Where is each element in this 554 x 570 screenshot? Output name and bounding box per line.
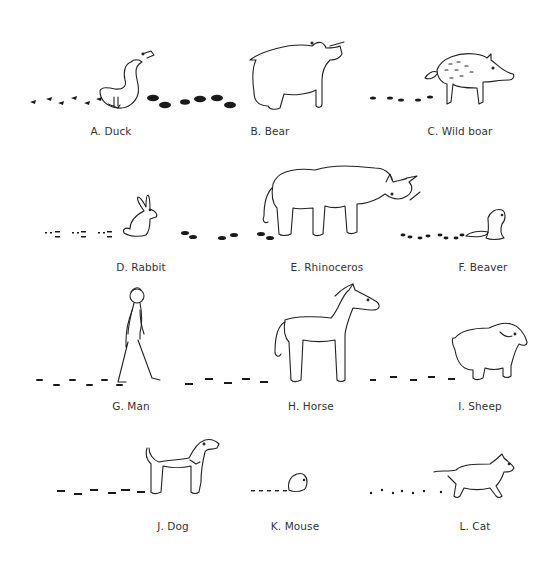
rhino-tracks [181,231,274,240]
duck-drawing [100,51,154,108]
man-drawing [118,288,160,382]
beaver-drawing [466,209,505,239]
label-bear: B. Bear [251,125,290,137]
rabbit-tracks [45,231,112,238]
label-rhinoceros: E. Rhinoceros [291,261,364,273]
rabbit-drawing [123,195,156,236]
label-wild-boar: C. Wild boar [427,125,492,137]
mouse-drawing [288,473,307,491]
duck-tracks [30,96,102,105]
label-duck: A. Duck [91,125,132,137]
rhinoceros-drawing [263,166,420,236]
horse-tracks [185,378,268,385]
dog-drawing [146,439,219,493]
animal-tracks-figure: A. Duck B. Bear C. Wild boar D. Rabbit E… [0,0,554,570]
label-sheep: I. Sheep [458,400,501,412]
label-mouse: K. Mouse [271,520,319,532]
dog-tracks [57,489,145,495]
label-horse: H. Horse [288,400,334,412]
sheep-drawing [452,323,527,379]
label-beaver: F. Beaver [458,261,507,273]
man-tracks [36,379,123,386]
boar-tracks [370,95,433,101]
bear-drawing [250,42,344,109]
label-dog: J. Dog [157,520,189,532]
cat-drawing [434,454,514,498]
beaver-tracks [401,234,465,240]
cat-tracks [370,489,442,494]
horse-drawing [275,284,379,382]
label-rabbit: D. Rabbit [116,261,166,273]
label-man: G. Man [112,400,150,412]
wild-boar-drawing [425,54,514,104]
sheep-tracks [370,376,455,381]
illustration-canvas [0,0,554,570]
label-cat: L. Cat [459,520,490,532]
bear-tracks [147,95,236,108]
mouse-tracks [251,490,287,491]
